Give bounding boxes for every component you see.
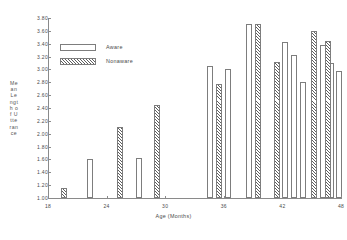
x-tick-mark	[282, 196, 283, 199]
y-tick-mark	[48, 134, 51, 135]
x-tick-label: 48	[338, 203, 344, 209]
y-tick-mark	[48, 198, 51, 199]
x-tick-label: 30	[162, 203, 168, 209]
y-tick-mark	[48, 57, 51, 58]
y-tick-mark	[48, 159, 51, 160]
y-tick-mark	[48, 95, 51, 96]
x-tick-label: 36	[221, 203, 227, 209]
legend-swatch-nonaware	[60, 58, 96, 65]
y-tick-mark	[48, 108, 51, 109]
y-tick-mark	[48, 185, 51, 186]
x-tick-mark	[107, 196, 108, 199]
y-tick-mark	[48, 31, 51, 32]
x-tick-mark	[341, 196, 342, 199]
y-tick-mark	[48, 18, 51, 19]
x-tick-mark	[224, 196, 225, 199]
y-tick-mark	[48, 69, 51, 70]
chart-figure: Mean Length of Utterance 3.803.603.403.2…	[0, 0, 347, 240]
x-axis-tick-labels: 182430364248	[0, 0, 347, 240]
y-tick-mark	[48, 172, 51, 173]
x-tick-label: 18	[45, 203, 51, 209]
y-tick-mark	[48, 147, 51, 148]
legend-label-aware: Aware	[106, 44, 123, 50]
legend-item-aware: Aware	[60, 40, 133, 54]
y-tick-mark	[48, 121, 51, 122]
x-tick-mark	[165, 196, 166, 199]
x-axis-title: Age (Months)	[0, 213, 347, 219]
y-tick-mark	[48, 82, 51, 83]
y-tick-mark	[48, 44, 51, 45]
legend-swatch-aware	[60, 44, 96, 51]
x-tick-label: 24	[104, 203, 110, 209]
legend: Aware Nonaware	[60, 40, 133, 68]
legend-item-nonaware: Nonaware	[60, 54, 133, 68]
x-tick-label: 42	[279, 203, 285, 209]
legend-label-nonaware: Nonaware	[106, 58, 133, 64]
